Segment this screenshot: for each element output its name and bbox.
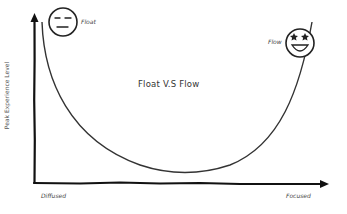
y-axis-label: Peak Experience Level [3,51,10,141]
star-struck-face-icon [286,29,314,57]
neutral-face-icon [49,8,77,36]
x-axis-arrow-icon [320,180,329,188]
x-axis-right-label: Focused [286,192,311,199]
diagram-title: Float V.S Flow [138,79,199,89]
y-axis [31,13,39,183]
x-axis [34,180,329,188]
float-label: Float [81,18,96,25]
diagram-canvas [0,0,347,214]
flow-label: Flow [268,38,282,45]
y-axis-arrow-icon [31,13,39,22]
x-axis-left-label: Diffused [41,192,66,199]
